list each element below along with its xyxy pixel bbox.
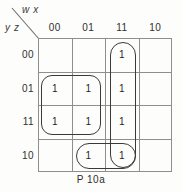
- row-header-3: 10: [8, 139, 34, 173]
- column-header-3: 10: [139, 20, 173, 36]
- kmap-figure: w x y z 00 01 11 10 00 01 11 10 1 1 1 1 …: [0, 0, 182, 192]
- row-header-1: 01: [8, 72, 34, 106]
- row-header-0: 00: [8, 38, 34, 72]
- row-header-2: 11: [8, 105, 34, 139]
- kmap-cell-yz00-wx10: [139, 38, 173, 72]
- kmap-group-row: [76, 143, 136, 169]
- row-variables-label: y z: [5, 22, 20, 33]
- column-header-1: 01: [72, 20, 106, 36]
- variable-header-corner: w x y z: [0, 0, 40, 40]
- column-header-2: 11: [105, 20, 139, 36]
- kmap-cell-yz01-wx10: [139, 72, 173, 106]
- kmap-cell-yz10-wx10: [139, 139, 173, 173]
- column-variables-label: w x: [22, 4, 39, 15]
- kmap-grid: 1 1 1 1 1 1 1 1 1: [38, 38, 172, 172]
- kmap-group-block: [41, 75, 101, 135]
- kmap-cell-yz11-wx10: [139, 105, 173, 139]
- kmap-cell-yz00-wx00: [38, 38, 72, 72]
- kmap-cell-yz00-wx01: [72, 38, 106, 72]
- figure-caption: P 10a: [0, 174, 182, 185]
- column-header-0: 00: [38, 20, 72, 36]
- kmap-cell-yz10-wx00: [38, 139, 72, 173]
